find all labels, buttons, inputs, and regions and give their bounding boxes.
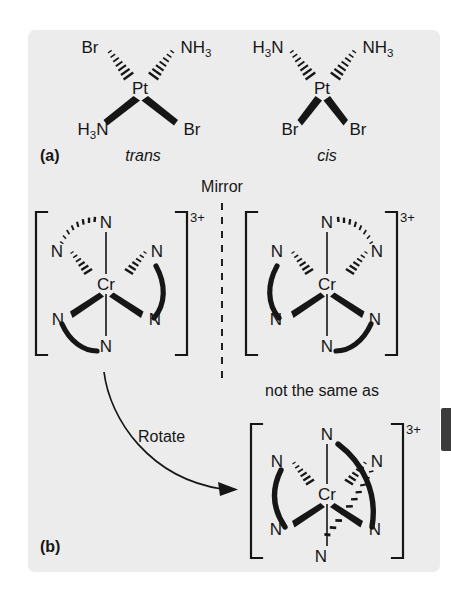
ligand-br-upper-left-trans: Br (82, 38, 99, 57)
bracket-left-open-left-complex (36, 212, 47, 355)
bond-hashed-upper-left-left-complex (71, 252, 93, 275)
donor-n-bottom-rotated: N (315, 547, 327, 566)
bond-hashed-upper-right-left-complex (125, 252, 147, 275)
donor-n-upper-right-rotated: N (371, 452, 383, 471)
en-bridge-bold-bottom-left-complex (62, 324, 97, 351)
bond-wedge-lower-left-trans (104, 96, 141, 126)
donor-n-upper-left-right-complex: N (271, 242, 283, 261)
bond-wedge-lower-right-right-complex (330, 293, 365, 319)
donor-n-lower-right-right-complex: N (369, 310, 381, 329)
en-bridge-hashed-top-left-complex (60, 217, 95, 244)
donor-n-top-left-complex: N (100, 213, 112, 232)
center-atom-cr-left-complex: Cr (97, 275, 115, 294)
bond-hashed-upper-left-trans (108, 50, 133, 79)
center-atom-pt-cis: Pt (314, 79, 330, 98)
ligand-nh3-upper-right-trans: NH3 (181, 38, 212, 59)
label-cis: cis (317, 147, 337, 164)
center-atom-cr-rotated: Cr (318, 485, 336, 504)
bond-wedge-lower-right-cis (324, 96, 349, 126)
label-not-the-same-as: not the same as (265, 382, 379, 399)
bracket-rotated-open (251, 424, 262, 558)
bond-wedge-lower-left-rotated (292, 503, 325, 528)
complex-right-enantiomer: 3+ (246, 210, 415, 356)
chemistry-figure: Pt Br NH3 H3N Br (0, 0, 451, 592)
donor-n-bottom-right-complex: N (321, 337, 333, 356)
charge-right-complex: 3+ (400, 210, 415, 225)
bracket-right-open-right-complex (246, 212, 257, 355)
bracket-right-close-right-complex (386, 212, 397, 355)
bracket-rotated-close (392, 424, 403, 558)
charge-rotated-complex: 3+ (406, 422, 421, 437)
donor-n-top-right-complex: N (321, 213, 333, 232)
center-atom-pt-trans: Pt (132, 79, 148, 98)
bond-hashed-upper-left-cis (290, 50, 315, 79)
bond-wedge-lower-right-left-complex (109, 293, 144, 319)
donor-n-upper-left-rotated: N (271, 452, 283, 471)
donor-n-bottom-left-complex: N (100, 337, 112, 356)
complex-left-enantiomer: 3+ (36, 210, 205, 356)
bond-wedge-lower-right-trans (142, 96, 179, 126)
en-bridge-bold-bottom-right-complex (336, 324, 371, 351)
bond-hashed-upper-left-rotated (293, 462, 315, 485)
bond-hashed-upper-right-trans (149, 50, 174, 79)
bond-hashed-upper-left-right-complex (292, 252, 314, 275)
bracket-left-close-left-complex (176, 212, 187, 355)
charge-left-complex: 3+ (190, 210, 205, 225)
complex-rotated: 3+ (251, 422, 421, 566)
donor-n-lower-left-rotated: N (270, 520, 282, 539)
bond-wedge-lower-left-left-complex (70, 293, 104, 319)
ligand-br-lower-right-cis: Br (350, 120, 367, 139)
ligand-h3n-lower-left-trans: H3N (78, 120, 109, 141)
ligand-br-lower-right-trans: Br (184, 120, 201, 139)
bond-hashed-upper-right-right-complex (346, 252, 368, 275)
donor-n-lower-left-left-complex: N (52, 310, 64, 329)
label-trans: trans (125, 147, 161, 164)
donor-n-lower-right-left-complex: N (149, 310, 161, 329)
rotate-arrow-head (218, 482, 238, 496)
ligand-br-lower-left-cis: Br (282, 120, 299, 139)
donor-n-upper-right-right-complex: N (371, 242, 383, 261)
bond-hashed-upper-right-cis (331, 50, 356, 79)
donor-n-upper-right-left-complex: N (151, 242, 163, 261)
donor-n-lower-right-rotated: N (369, 520, 381, 539)
caption-b: (b) (40, 538, 60, 555)
molecule-trans: Pt Br NH3 H3N Br (78, 38, 212, 141)
en-bridge-bold-left-rotated (275, 470, 285, 527)
molecule-cis: Pt H3N NH3 Br Br (253, 38, 394, 139)
caption-a: (a) (40, 147, 60, 164)
donor-n-upper-left-left-complex: N (51, 242, 63, 261)
donor-n-lower-left-right-complex: N (270, 310, 282, 329)
label-mirror: Mirror (201, 178, 243, 195)
ligand-nh3-upper-right-cis: NH3 (363, 38, 394, 59)
ligand-h3n-upper-left-cis: H3N (253, 38, 284, 59)
bond-wedge-lower-left-right-complex (291, 293, 325, 319)
center-atom-cr-right-complex: Cr (318, 275, 336, 294)
donor-n-top-rotated: N (321, 425, 333, 444)
label-rotate: Rotate (138, 428, 185, 445)
en-bridge-hashed-top-right-complex (338, 217, 373, 244)
bond-wedge-lower-left-cis (298, 96, 323, 126)
figure-artwork: Pt Br NH3 H3N Br (0, 0, 451, 592)
